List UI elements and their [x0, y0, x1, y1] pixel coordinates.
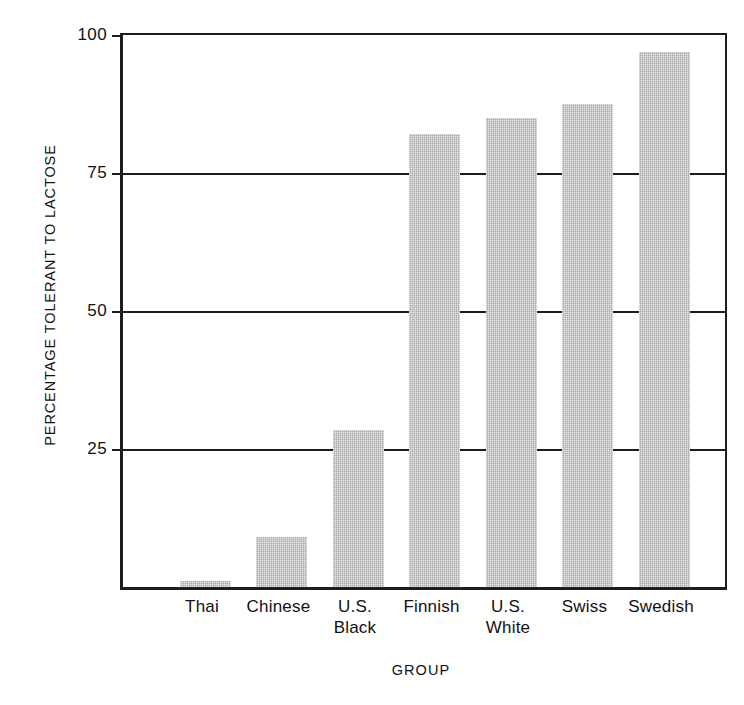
x-label-line1: U.S.	[338, 597, 372, 616]
y-tick-label-25: 25	[87, 439, 107, 459]
x-label-swiss: Swiss	[546, 596, 623, 617]
x-label-line1: Swedish	[628, 597, 694, 616]
y-tick-75	[112, 173, 121, 175]
bar-thai	[180, 581, 231, 587]
x-label-u-s-white: U.S.White	[470, 596, 547, 638]
x-label-line1: Thai	[185, 597, 219, 616]
y-tick-label-100: 100	[77, 25, 107, 45]
x-label-line1: Swiss	[562, 597, 607, 616]
bar-chart-figure: PERCENTAGE TOLERANT TO LACTOSE 100755025…	[0, 0, 744, 705]
x-label-line2: Black	[317, 617, 394, 638]
bar-chinese	[256, 537, 307, 587]
y-tick-label-50: 50	[87, 301, 107, 321]
x-label-line2: White	[470, 617, 547, 638]
bar-finnish	[409, 134, 460, 587]
x-axis-title: GROUP	[120, 662, 722, 678]
x-label-thai: Thai	[164, 596, 241, 617]
x-label-line1: Chinese	[247, 597, 311, 616]
x-label-finnish: Finnish	[393, 596, 470, 617]
y-axis-title: PERCENTAGE TOLERANT TO LACTOSE	[42, 35, 58, 555]
y-tick-50	[112, 311, 121, 313]
x-label-line1: U.S.	[491, 597, 525, 616]
x-label-line1: Finnish	[403, 597, 459, 616]
y-tick-100	[112, 35, 121, 37]
x-label-u-s-black: U.S.Black	[317, 596, 394, 638]
y-tick-label-75: 75	[87, 163, 107, 183]
bar-u-s-white	[486, 118, 537, 587]
bar-swiss	[562, 104, 613, 587]
y-tick-25	[112, 449, 121, 451]
bar-u-s-black	[333, 430, 384, 587]
plot-area: 100755025	[120, 33, 727, 590]
x-label-swedish: Swedish	[623, 596, 700, 617]
bar-swedish	[639, 52, 690, 587]
x-label-chinese: Chinese	[240, 596, 317, 617]
